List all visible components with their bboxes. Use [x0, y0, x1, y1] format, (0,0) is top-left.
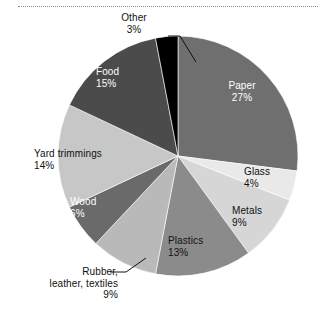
slice-label-paper: Paper 27%	[212, 80, 272, 103]
slice-label-yard-trimmings: Yard trimmings 14%	[34, 148, 128, 171]
slice-label-paper-name: Paper	[228, 80, 255, 91]
slice-label-rubber-name: Rubber,	[82, 266, 118, 277]
pie-chart-figure: Other 3% Paper 27% Glass 4% Metals 9% Pl…	[0, 0, 322, 322]
slice-label-metals-pct: 9%	[232, 217, 284, 229]
slice-label-glass-pct: 4%	[244, 178, 296, 190]
slice-label-other: Other 3%	[98, 12, 170, 35]
slice-label-other-pct: 3%	[98, 24, 170, 36]
slice-label-rubber-pct: 9%	[2, 289, 118, 301]
slice-label-plastics: Plastics 13%	[168, 235, 224, 258]
slice-label-plastics-pct: 13%	[168, 247, 224, 259]
chart-plot-area: Other 3% Paper 27% Glass 4% Metals 9% Pl…	[0, 0, 322, 322]
pie-slice-paper[interactable]	[178, 36, 298, 171]
slice-label-wood: Wood 6%	[70, 196, 116, 219]
slice-label-rubber: Rubber, leather, textiles 9%	[2, 266, 118, 301]
slice-label-food-name: Food	[96, 66, 119, 77]
slice-label-yard-trimmings-name: Yard trimmings	[34, 148, 102, 159]
slice-label-metals: Metals 9%	[232, 205, 284, 228]
slice-label-food-pct: 15%	[96, 78, 142, 90]
slice-label-rubber-name2: leather, textiles	[2, 278, 118, 290]
slice-label-glass: Glass 4%	[244, 166, 296, 189]
slice-label-wood-pct: 6%	[70, 208, 116, 220]
slice-label-metals-name: Metals	[232, 205, 262, 216]
slice-label-wood-name: Wood	[70, 196, 96, 207]
slice-label-food: Food 15%	[96, 66, 142, 89]
slice-label-yard-trimmings-pct: 14%	[34, 160, 128, 172]
slice-label-other-name: Other	[121, 12, 147, 23]
slice-label-glass-name: Glass	[244, 166, 270, 177]
slice-label-plastics-name: Plastics	[168, 235, 203, 246]
slice-label-paper-pct: 27%	[212, 92, 272, 104]
